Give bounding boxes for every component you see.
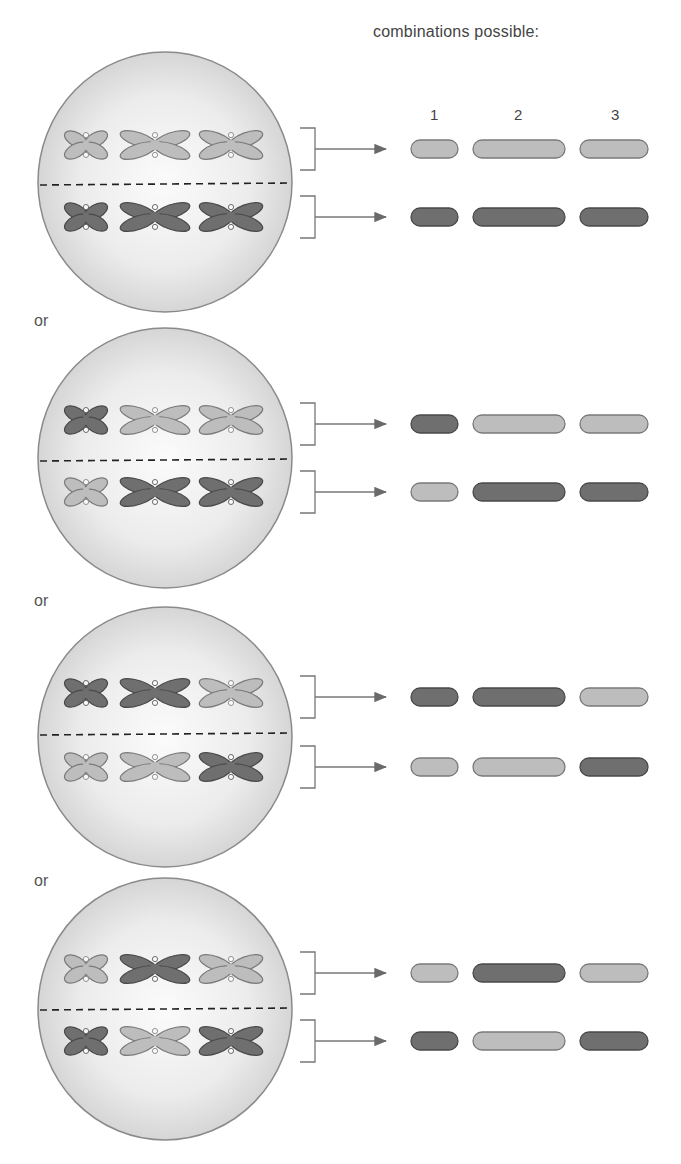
bracket-top <box>300 128 315 170</box>
bracket-bottom <box>300 196 315 238</box>
combination-bar-bottom-3 <box>580 483 648 501</box>
combination-bar-bottom-1 <box>411 208 458 226</box>
combination-bar-bottom-1 <box>411 758 458 776</box>
combination-bar-bottom-1 <box>411 483 458 501</box>
combination-bar-top-3 <box>580 140 648 158</box>
combination-bar-top-2 <box>473 964 565 982</box>
combination-bar-top-3 <box>580 415 648 433</box>
combination-bar-top-3 <box>580 964 648 982</box>
bracket-bottom <box>300 746 315 788</box>
bracket-bottom <box>300 471 315 513</box>
bracket-bottom <box>300 1020 315 1062</box>
panel-2 <box>38 328 648 588</box>
bracket-top <box>300 676 315 718</box>
combination-bar-bottom-3 <box>580 758 648 776</box>
bracket-top <box>300 952 315 994</box>
combination-bar-bottom-2 <box>473 208 565 226</box>
panel-4 <box>38 878 648 1140</box>
combination-bar-top-1 <box>411 415 458 433</box>
combination-bar-bottom-2 <box>473 758 565 776</box>
combination-bar-top-2 <box>473 140 565 158</box>
combination-bar-top-1 <box>411 964 458 982</box>
combination-bar-bottom-3 <box>580 1032 648 1050</box>
combination-bar-bottom-1 <box>411 1032 458 1050</box>
bracket-top <box>300 403 315 445</box>
combination-bar-top-3 <box>580 688 648 706</box>
combination-bar-bottom-3 <box>580 208 648 226</box>
combination-bar-top-1 <box>411 688 458 706</box>
combination-bar-top-1 <box>411 140 458 158</box>
panel-1 <box>38 52 648 312</box>
panel-3 <box>38 607 648 867</box>
combination-bar-bottom-2 <box>473 483 565 501</box>
meiosis-alignment-diagram <box>0 0 681 1164</box>
combination-bar-top-2 <box>473 415 565 433</box>
combination-bar-top-2 <box>473 688 565 706</box>
cell-outline <box>38 607 292 867</box>
combination-bar-bottom-2 <box>473 1032 565 1050</box>
cell-outline <box>38 52 292 312</box>
cell-outline <box>38 328 292 588</box>
